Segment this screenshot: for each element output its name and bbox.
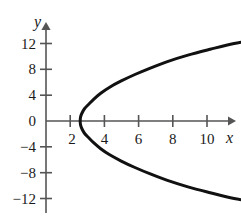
x-axis-label-6: 6: [135, 132, 143, 147]
y-axis-arrowhead: [41, 22, 50, 30]
x-axis-label-2: 2: [68, 132, 76, 147]
y-axis-label-minus4: −4: [2, 139, 36, 154]
y-axis-name: y: [34, 14, 41, 30]
y-axis-label-minus12: −12: [2, 191, 36, 206]
y-axis-label-8: 8: [6, 62, 36, 77]
y-axis-label-0: 0: [6, 114, 36, 129]
x-axis-label-8: 8: [169, 132, 177, 147]
x-axis-name: x: [226, 130, 233, 146]
x-axis-arrowhead: [228, 116, 236, 125]
x-axis-label-4: 4: [101, 132, 109, 147]
plot-area: [0, 0, 241, 221]
y-axis-label-4: 4: [6, 88, 36, 103]
parabola-chart-figure: 12 8 4 0 −4 −8 −12 2 4 6 8 10 y x: [0, 0, 241, 221]
y-axis-label-12: 12: [6, 36, 36, 51]
y-axis-label-minus8: −8: [2, 165, 36, 180]
x-axis-label-10: 10: [200, 132, 215, 147]
